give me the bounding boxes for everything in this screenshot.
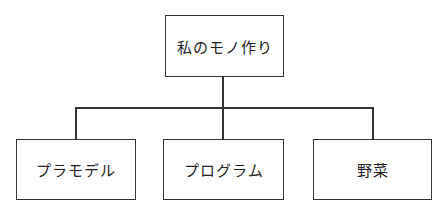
child-connector-3 — [372, 107, 374, 139]
root-node-label: 私のモノ作り — [177, 36, 273, 57]
root-node: 私のモノ作り — [165, 15, 284, 77]
child-node-plamodel: プラモデル — [16, 139, 136, 200]
child-node-vegetables: 野菜 — [313, 139, 432, 200]
child-node-label: プラモデル — [36, 159, 116, 180]
child-node-label: 野菜 — [357, 159, 389, 180]
child-node-label: プログラム — [184, 159, 264, 180]
child-node-program: プログラム — [163, 139, 284, 200]
horizontal-bar — [75, 107, 374, 109]
child-connector-1 — [75, 107, 77, 139]
